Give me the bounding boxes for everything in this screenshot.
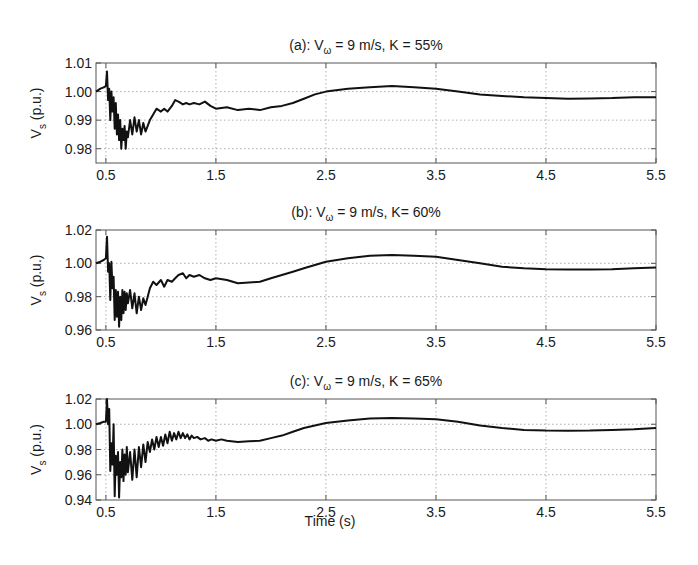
x-tick-label: 0.5	[96, 334, 116, 350]
subplot-b: 0.51.52.53.54.55.50.960.981.001.02(b): V…	[28, 204, 666, 350]
y-axis-label: Vs (p.u.)	[28, 424, 48, 475]
x-axis-label: Time (s)	[305, 513, 356, 529]
x-tick-label: 2.5	[316, 334, 336, 350]
y-tick-label: 0.96	[65, 322, 92, 338]
y-tick-label: 0.94	[65, 492, 92, 508]
x-tick-label: 0.5	[96, 167, 116, 183]
y-tick-label: 0.96	[65, 467, 92, 483]
x-tick-label: 3.5	[426, 504, 446, 520]
y-tick-label: 1.00	[65, 255, 92, 271]
y-tick-label: 1.02	[65, 391, 92, 407]
y-tick-label: 1.01	[65, 55, 92, 71]
subplot-title: (c): Vω = 9 m/s, K = 65%	[290, 373, 443, 392]
plot-area	[96, 230, 656, 330]
plot-area	[96, 63, 656, 163]
subplot-title: (a): Vω = 9 m/s, K = 55%	[289, 37, 442, 56]
x-tick-label: 2.5	[316, 167, 336, 183]
y-tick-label: 0.99	[65, 112, 92, 128]
y-axis-label: Vs (p.u.)	[28, 255, 48, 306]
y-tick-label: 1.02	[65, 222, 92, 238]
y-tick-label: 1.00	[65, 416, 92, 432]
x-tick-label: 1.5	[206, 334, 226, 350]
x-tick-label: 1.5	[206, 504, 226, 520]
x-tick-label: 5.5	[646, 167, 666, 183]
x-tick-label: 3.5	[426, 167, 446, 183]
x-tick-label: 5.5	[646, 334, 666, 350]
x-tick-label: 1.5	[206, 167, 226, 183]
y-tick-label: 0.98	[65, 141, 92, 157]
x-tick-label: 4.5	[536, 167, 556, 183]
y-tick-label: 1.00	[65, 84, 92, 100]
subplot-a: 0.51.52.53.54.55.50.980.991.001.01(a): V…	[28, 37, 666, 183]
x-tick-label: 4.5	[536, 504, 556, 520]
figure: 0.51.52.53.54.55.50.980.991.001.01(a): V…	[0, 0, 698, 565]
subplot-c: 0.51.52.53.54.55.50.940.960.981.001.02(c…	[28, 373, 666, 520]
x-tick-label: 0.5	[96, 504, 116, 520]
x-tick-label: 4.5	[536, 334, 556, 350]
x-tick-label: 5.5	[646, 504, 666, 520]
y-tick-label: 0.98	[65, 289, 92, 305]
subplot-title: (b): Vω = 9 m/s, K= 60%	[291, 204, 440, 223]
y-tick-label: 0.98	[65, 442, 92, 458]
y-axis-label: Vs (p.u.)	[28, 88, 48, 139]
x-tick-label: 3.5	[426, 334, 446, 350]
